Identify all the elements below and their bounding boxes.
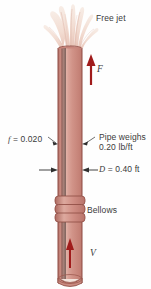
- label-pipe-weight: Pipe weighs0.20 lb/ft: [99, 133, 149, 152]
- friction-leader-line: [48, 137, 58, 146]
- bellows-section: [55, 196, 85, 222]
- label-velocity: V: [90, 248, 96, 258]
- free-jet-spray: [44, 4, 99, 48]
- pipe-weight-leader-line: [82, 137, 95, 146]
- friction-factor-symbol: f: [8, 134, 10, 144]
- diameter-value: 0.40 ft: [115, 164, 139, 174]
- friction-factor-value: 0.020: [20, 134, 42, 144]
- label-diameter: D = 0.40 ft: [99, 165, 140, 175]
- label-free-jet: Free jet: [96, 14, 126, 24]
- label-friction-factor: f = 0.020: [8, 135, 42, 145]
- pipe-bellows-diagram: Free jet f = 0.020 Pipe weighs0.20 lb/ft…: [0, 0, 151, 289]
- pipe-weight-line2: 0.20 lb/ft: [99, 142, 133, 152]
- force-arrow-icon: [87, 54, 96, 85]
- label-force: F: [97, 64, 103, 74]
- label-bellows: Bellows: [87, 206, 117, 216]
- pipe-weight-line1: Pipe weighs: [99, 132, 146, 142]
- diameter-symbol: D: [99, 164, 105, 174]
